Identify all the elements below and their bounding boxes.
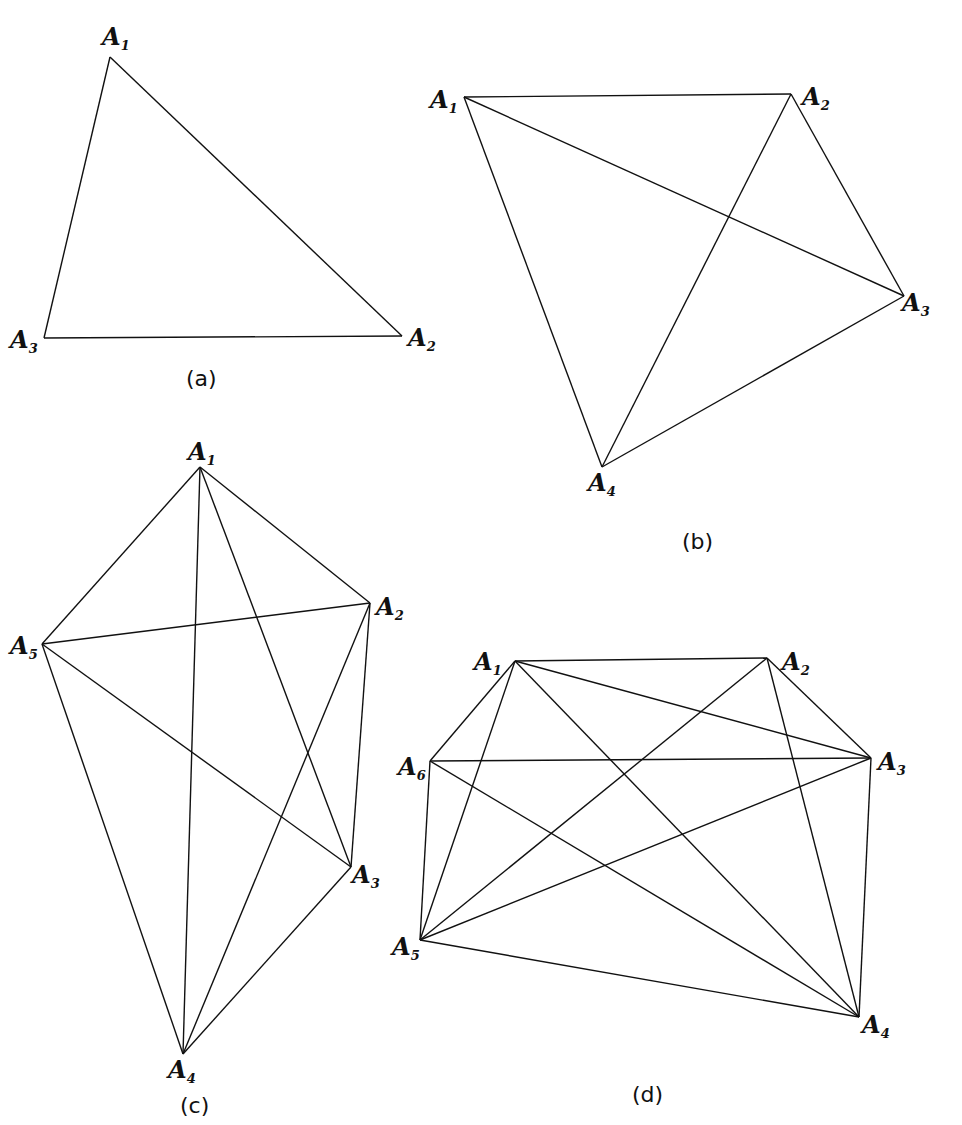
- edge-d-A1-A5: [420, 661, 515, 940]
- caption-c: (c): [180, 1093, 209, 1118]
- edge-a-A1-A2: [110, 57, 402, 336]
- vertex-subscript: 2: [394, 608, 404, 623]
- vertex-label-d-A6: A6: [396, 752, 426, 783]
- vertex-subscript: 5: [29, 647, 38, 662]
- vertex-subscript: 2: [800, 663, 810, 678]
- edge-c-A1-A4: [183, 467, 200, 1054]
- figure-d: A1A2A3A4A5A6(d): [390, 647, 906, 1107]
- vertex-subscript: 3: [371, 876, 380, 891]
- edge-b-A3-A4: [602, 296, 904, 467]
- edge-d-A3-A4: [859, 758, 871, 1017]
- vertex-label-a-A3: A3: [8, 325, 38, 356]
- edge-b-A1-A3: [464, 97, 904, 296]
- edge-d-A1-A2: [515, 658, 767, 661]
- vertex-subscript: 4: [187, 1071, 196, 1086]
- vertex-label-b-A2: A2: [800, 82, 830, 113]
- vertex-subscript: 4: [881, 1026, 890, 1041]
- vertex-label-d-A2: A2: [780, 647, 810, 678]
- vertex-label-a-A2: A2: [406, 323, 436, 354]
- edge-c-A4-A5: [42, 644, 183, 1054]
- figure-c: A1A2A3A4A5(c): [8, 437, 404, 1118]
- vertex-subscript: 3: [29, 341, 38, 356]
- edge-d-A5-A3: [420, 758, 871, 940]
- vertex-subscript: 1: [121, 38, 130, 53]
- vertex-subscript: 5: [411, 948, 420, 963]
- edge-c-A3-A4: [183, 867, 351, 1054]
- edge-b-A4-A1: [464, 97, 602, 467]
- edge-a-A2-A3: [44, 336, 402, 338]
- vertex-subscript: 6: [417, 768, 426, 783]
- vertex-label-d-A5: A5: [390, 932, 420, 963]
- vertex-subscript: 1: [207, 453, 216, 468]
- figure-a: A1A2A3(a): [8, 22, 436, 391]
- figure-b: A1A2A3A4(b): [428, 82, 930, 554]
- vertex-subscript: 1: [449, 101, 458, 116]
- vertex-label-b-A3: A3: [900, 288, 930, 319]
- edge-b-A2-A4: [602, 94, 791, 467]
- edge-d-A6-A3: [430, 758, 871, 761]
- edge-b-A2-A3: [791, 94, 904, 296]
- edge-c-A2-A5: [42, 603, 370, 644]
- edge-d-A1-A4: [515, 661, 859, 1017]
- edge-d-A2-A5: [420, 658, 767, 940]
- vertex-subscript: 2: [820, 98, 830, 113]
- vertex-subscript: 1: [493, 663, 502, 678]
- vertex-label-c-A4: A4: [166, 1055, 196, 1086]
- edge-b-A1-A2: [464, 94, 791, 97]
- edge-d-A1-A6: [430, 661, 515, 761]
- vertex-label-d-A3: A3: [876, 747, 906, 778]
- vertex-subscript: 3: [897, 763, 906, 778]
- caption-d: (d): [632, 1082, 663, 1107]
- edge-d-A1-A3: [515, 661, 871, 758]
- vertex-label-a-A1: A1: [100, 22, 130, 53]
- edge-d-A2-A4: [767, 658, 859, 1017]
- edge-d-A6-A4: [430, 761, 859, 1017]
- complete-graphs-figure: A1A2A3(a) A1A2A3A4(b) A1A2A3A4A5(c) A1A2…: [0, 0, 962, 1125]
- vertex-subscript: 4: [607, 484, 616, 499]
- edge-c-A1-A5: [42, 467, 200, 644]
- vertex-label-b-A1: A1: [428, 85, 458, 116]
- caption-b: (b): [682, 529, 713, 554]
- vertex-label-c-A1: A1: [186, 437, 216, 468]
- vertex-label-d-A1: A1: [472, 647, 502, 678]
- edge-c-A3-A5: [42, 644, 351, 867]
- vertex-label-d-A4: A4: [860, 1010, 890, 1041]
- vertex-subscript: 3: [921, 304, 930, 319]
- vertex-label-c-A5: A5: [8, 631, 38, 662]
- vertex-subscript: 2: [426, 339, 436, 354]
- caption-a: (a): [186, 366, 217, 391]
- vertex-label-b-A4: A4: [586, 468, 616, 499]
- vertex-label-c-A3: A3: [350, 860, 380, 891]
- vertex-label-c-A2: A2: [374, 592, 404, 623]
- edge-a-A3-A1: [44, 57, 110, 338]
